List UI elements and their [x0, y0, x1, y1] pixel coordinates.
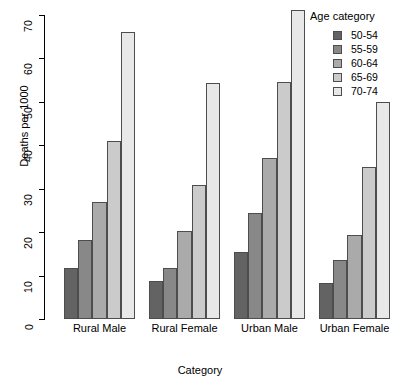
y-axis-tick-label: 0 [24, 324, 35, 330]
bar [163, 268, 177, 319]
y-axis-tick-label-wrap: 20 [37, 232, 38, 233]
bar-group [149, 9, 220, 320]
y-axis-tick-label-wrap: 10 [37, 276, 38, 277]
bar [262, 158, 276, 319]
y-axis-tick-label: 10 [24, 281, 35, 293]
legend-swatch [333, 59, 342, 68]
y-axis-tick-label: 50 [24, 107, 35, 119]
bar [277, 82, 291, 319]
y-axis-tick-label-wrap: 30 [37, 189, 38, 190]
legend-item: 60-64 [310, 57, 398, 70]
bar [107, 141, 121, 319]
bar-group [64, 9, 135, 320]
legend-swatch [333, 45, 342, 54]
bar [78, 240, 92, 319]
bar [234, 252, 248, 319]
x-axis-tick-label: Urban Female [295, 322, 400, 334]
y-axis-tick-label-wrap: 70 [37, 15, 38, 16]
legend-swatch [333, 73, 342, 82]
bar [291, 10, 305, 319]
bar [347, 235, 361, 319]
legend: Age category 50-5455-5960-6465-6970-74 [310, 10, 398, 99]
y-axis-tick-label-wrap: 0 [37, 319, 38, 320]
bar [319, 283, 333, 319]
y-axis-tick-label: 40 [24, 151, 35, 163]
bar [177, 231, 191, 319]
legend-item: 50-54 [310, 29, 398, 42]
legend-swatch [333, 31, 342, 40]
y-axis-tick [39, 58, 44, 59]
legend-entries: 50-5455-5960-6465-6970-74 [310, 29, 398, 98]
bar [192, 185, 206, 319]
bar [333, 260, 347, 319]
y-axis-line [44, 15, 45, 320]
y-axis-tick [39, 276, 44, 277]
bar [376, 102, 390, 319]
y-axis-tick [39, 102, 44, 103]
y-axis-tick [39, 319, 44, 320]
legend-label: 65-69 [351, 71, 378, 83]
y-axis-tick-label-wrap: 50 [37, 102, 38, 103]
y-axis-tick-label: 30 [24, 194, 35, 206]
legend-label: 55-59 [351, 43, 378, 55]
legend-swatch [333, 87, 342, 96]
legend-label: 50-54 [351, 29, 378, 41]
y-axis-tick [39, 145, 44, 146]
bar [248, 213, 262, 319]
bar [206, 83, 220, 319]
y-axis-tick-label: 60 [24, 64, 35, 76]
legend-item: 70-74 [310, 85, 398, 98]
bar [362, 167, 376, 319]
legend-item: 65-69 [310, 71, 398, 84]
legend-item: 55-59 [310, 43, 398, 56]
bar [92, 202, 106, 319]
bar-group [234, 9, 305, 320]
y-axis-tick-label: 70 [24, 20, 35, 32]
bar [121, 32, 135, 319]
y-axis-tick [39, 189, 44, 190]
bar [64, 268, 78, 319]
y-axis-tick-label: 20 [24, 237, 35, 249]
x-axis-title: Category [0, 364, 400, 376]
legend-label: 70-74 [351, 85, 378, 97]
y-axis-tick [39, 15, 44, 16]
legend-label: 60-64 [351, 57, 378, 69]
y-axis-title: Deaths per 1000 [18, 56, 30, 196]
y-axis-tick-label-wrap: 40 [37, 145, 38, 146]
bar [149, 281, 163, 319]
bar-chart: Deaths per 1000 010203040506070 Rural Ma… [0, 0, 400, 385]
legend-title: Age category [310, 10, 398, 22]
y-axis-tick-label-wrap: 60 [37, 58, 38, 59]
y-axis-tick [39, 232, 44, 233]
